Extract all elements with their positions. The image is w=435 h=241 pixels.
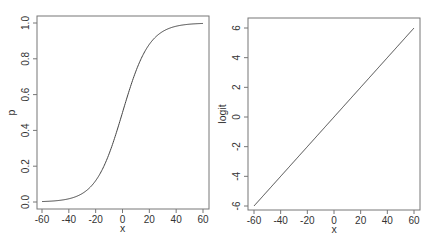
x-tick-label: -40 — [273, 215, 288, 226]
x-tick-label: -40 — [62, 214, 77, 225]
y-tick-label: -2 — [231, 142, 242, 151]
y-tick-label: 1.0 — [20, 16, 31, 30]
y-axis: -6-4-20246logit — [216, 25, 248, 211]
x-tick-label: 40 — [382, 215, 394, 226]
y-tick-label: 4 — [231, 54, 242, 60]
y-tick-label: 0.8 — [20, 51, 31, 65]
y-tick-label: 0.6 — [20, 87, 31, 101]
y-tick-label: 0.2 — [20, 159, 31, 173]
x-tick-label: -60 — [35, 214, 50, 225]
y-tick-label: 6 — [231, 25, 242, 31]
x-tick-label: 40 — [171, 214, 183, 225]
x-tick-label: 20 — [355, 215, 367, 226]
y-tick-label: -4 — [231, 171, 242, 180]
x-axis-title: x — [331, 223, 337, 235]
chart-canvas: -60-40-200204060x0.00.20.40.60.81.0p -60… — [0, 0, 435, 241]
x-tick-label: -20 — [300, 215, 315, 226]
x-tick-label: 60 — [197, 214, 209, 225]
x-axis: -60-40-200204060x — [35, 209, 209, 234]
y-tick-label: 0 — [231, 114, 242, 120]
data-line — [42, 23, 203, 201]
x-axis: -60-40-200204060x — [247, 210, 420, 235]
y-tick-label: 0.0 — [20, 195, 31, 209]
y-axis-title: p — [5, 109, 17, 115]
y-axis: 0.00.20.40.60.81.0p — [5, 16, 37, 209]
left-chart-probability: -60-40-200204060x0.00.20.40.60.81.0p — [5, 16, 209, 234]
right-chart-logit: -60-40-200204060x-6-4-20246logit — [216, 18, 420, 235]
y-axis-title: logit — [216, 104, 228, 123]
data-line — [254, 28, 414, 206]
y-tick-label: -6 — [231, 201, 242, 210]
y-tick-label: 2 — [231, 84, 242, 90]
x-tick-label: -60 — [247, 215, 262, 226]
y-tick-label: 0.4 — [20, 123, 31, 137]
x-axis-title: x — [120, 222, 126, 234]
x-tick-label: -20 — [88, 214, 103, 225]
plot-frame — [248, 18, 420, 210]
x-tick-label: 20 — [144, 214, 156, 225]
x-tick-label: 60 — [408, 215, 420, 226]
